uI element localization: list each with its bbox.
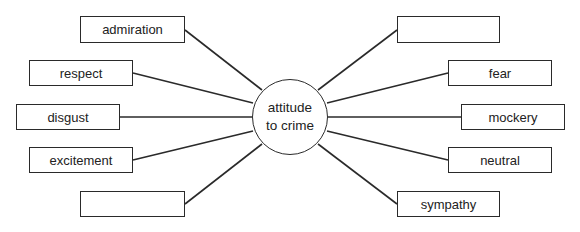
connector-blank-right — [318, 30, 397, 90]
box-mockery: mockery — [461, 104, 565, 130]
box-blank-left[interactable] — [80, 191, 185, 217]
box-label: disgust — [47, 110, 88, 125]
box-label: fear — [489, 66, 511, 81]
box-respect: respect — [29, 60, 133, 86]
box-sympathy: sympathy — [397, 191, 500, 217]
box-excitement: excitement — [29, 147, 133, 173]
box-admiration: admiration — [80, 16, 185, 43]
connector-fear — [327, 73, 448, 103]
connector-excitement — [133, 131, 253, 160]
central-node-label-line2: to crime — [266, 117, 314, 135]
connector-blank-left — [185, 144, 262, 204]
box-fear: fear — [448, 60, 552, 86]
box-label: mockery — [488, 110, 537, 125]
connector-admiration — [185, 30, 262, 90]
central-node-label-line1: attitude — [268, 99, 312, 117]
box-label: excitement — [50, 153, 113, 168]
box-neutral: neutral — [448, 147, 552, 173]
box-label: respect — [60, 66, 103, 81]
box-label: neutral — [480, 153, 520, 168]
box-label: admiration — [102, 22, 163, 37]
box-disgust: disgust — [16, 104, 120, 130]
connector-sympathy — [318, 144, 397, 204]
central-node: attitude to crime — [252, 79, 328, 155]
box-label: sympathy — [421, 197, 477, 212]
connector-neutral — [327, 131, 448, 160]
box-blank-right[interactable] — [397, 16, 500, 43]
connector-respect — [133, 73, 253, 103]
